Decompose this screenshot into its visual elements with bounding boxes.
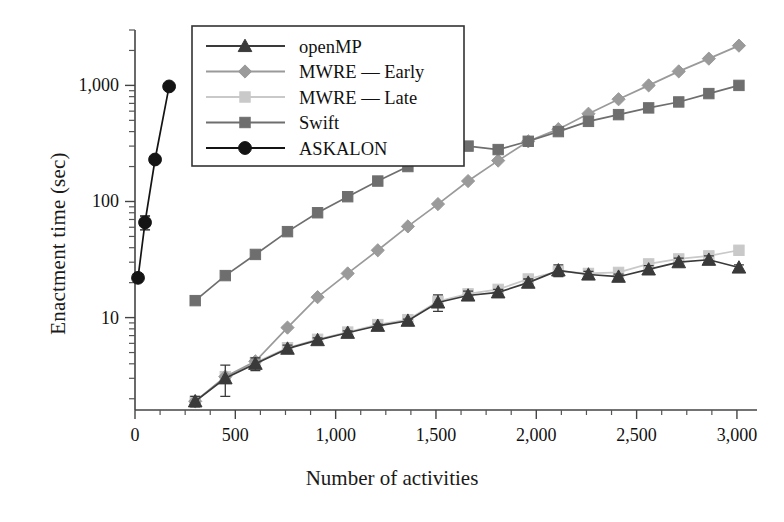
legend-label: ASKALON [299,139,387,159]
series-openmp [188,253,745,407]
data-point-marker [732,39,745,52]
x-tick-label-500: 500 [222,425,249,445]
data-point-marker [163,80,176,93]
data-point-marker [239,142,252,155]
data-point-marker [643,103,653,113]
data-point-marker [674,97,684,107]
data-point-marker [672,65,685,78]
legend-label: Swift [299,113,340,133]
data-point-marker [342,191,352,201]
data-point-marker [282,226,292,236]
data-point-marker [250,249,260,259]
data-point-marker [312,208,322,218]
x-tick-label-2000: 2,000 [516,425,557,445]
data-point-marker [612,93,625,106]
chart-canvas: 05001,0001,5002,0002,5003,000101001,000o… [0,0,784,522]
y-axis-title: Enactment time (sec) [46,94,71,394]
data-point-marker [240,92,250,102]
data-point-marker [613,109,623,119]
data-point-marker [132,271,145,284]
series-askalon [132,80,176,284]
x-tick-label-1000: 1,000 [315,425,356,445]
series-line [195,260,739,402]
y-tick-label-10: 10 [101,308,119,328]
data-point-marker [704,88,714,98]
data-point-marker [240,117,250,127]
legend-label: MWRE — Late [299,88,417,108]
x-tick-label-2500: 2,500 [616,425,657,445]
data-point-marker [493,144,503,154]
data-point-marker [492,154,505,167]
legend-label: openMP [299,37,362,57]
data-point-marker [523,136,533,146]
data-point-marker [734,245,744,255]
chart-figure: 05001,0001,5002,0002,5003,000101001,000o… [0,0,784,522]
data-point-marker [461,174,474,187]
x-tick-label-3000: 3,000 [717,425,758,445]
x-tick-label-1500: 1,500 [416,425,457,445]
series-line [195,250,739,401]
data-point-marker [190,295,200,305]
series-line [138,86,169,277]
legend-label: MWRE — Early [299,62,425,82]
x-axis-title: Number of activities [0,466,784,491]
series-mwre-late [190,245,744,406]
y-tick-label-1000: 1,000 [79,75,120,95]
data-point-marker [642,79,655,92]
data-point-marker [220,270,230,280]
x-tick-label-0: 0 [131,425,140,445]
data-point-marker [431,197,444,210]
y-tick-label-100: 100 [92,191,119,211]
data-point-marker [149,153,162,166]
data-point-marker [139,216,152,229]
data-point-marker [734,80,744,90]
data-point-marker [702,52,715,65]
data-point-marker [583,116,593,126]
data-point-marker [373,176,383,186]
data-point-marker [553,126,563,136]
